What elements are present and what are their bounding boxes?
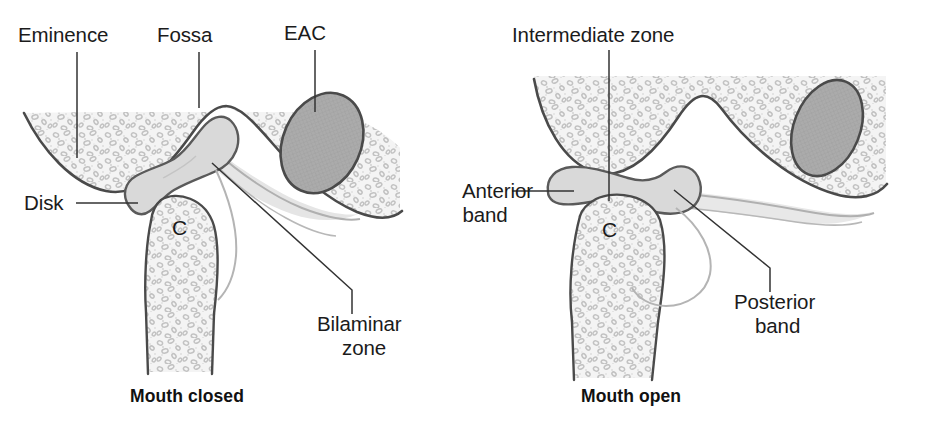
label-disk: Disk	[24, 191, 63, 215]
label-eminence: Eminence	[18, 23, 108, 47]
label-bilaminar-line2: zone	[342, 336, 386, 360]
label-anterior-band-line2: band	[462, 203, 508, 227]
panel-mouth-open: Intermediate zone Anterior band Posterio…	[462, 0, 937, 421]
label-posterior-band-line2: band	[755, 314, 800, 338]
label-eac: EAC	[284, 21, 326, 45]
label-posterior-band-line1: Posterior	[734, 290, 815, 314]
label-anterior-band-line1: Anterior	[462, 179, 508, 203]
mouth-open-artwork	[462, 0, 937, 421]
capsule-closed	[216, 170, 236, 300]
label-intermediate-zone: Intermediate zone	[512, 23, 674, 47]
caption-mouth-open: Mouth open	[581, 386, 681, 407]
tmj-diagram-figure: Eminence Fossa EAC Disk Bilaminar zone C…	[0, 0, 937, 421]
panel-mouth-closed: Eminence Fossa EAC Disk Bilaminar zone C…	[0, 0, 470, 421]
condyle-letter-open: C	[602, 218, 617, 242]
label-bilaminar-line1: Bilaminar	[317, 312, 402, 336]
caption-mouth-closed: Mouth closed	[130, 386, 244, 407]
label-fossa: Fossa	[157, 23, 212, 47]
condyle-open	[570, 195, 664, 380]
condyle-letter-closed: C	[172, 216, 187, 240]
mouth-closed-artwork	[0, 0, 470, 421]
